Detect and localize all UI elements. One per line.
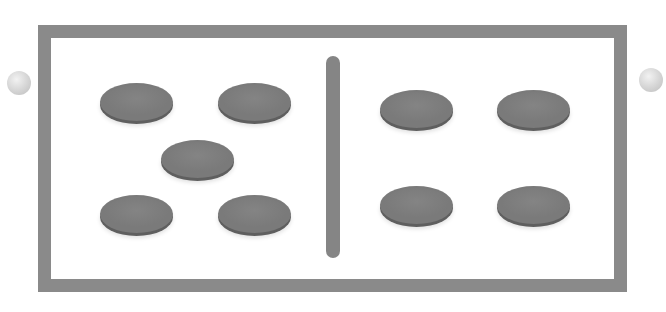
pip	[218, 83, 291, 121]
domino-divider	[326, 56, 340, 258]
pip	[380, 90, 453, 128]
pip	[100, 195, 173, 233]
pip	[100, 83, 173, 121]
pip	[380, 186, 453, 224]
right-nav-dot[interactable]	[639, 68, 663, 92]
pip	[497, 186, 570, 224]
pip	[161, 140, 234, 178]
left-nav-dot[interactable]	[7, 71, 31, 95]
pip	[497, 90, 570, 128]
pip	[218, 195, 291, 233]
